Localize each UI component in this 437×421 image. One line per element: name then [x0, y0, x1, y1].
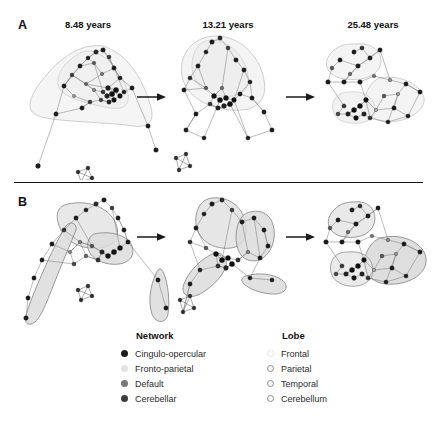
- graph-node: [70, 73, 74, 77]
- graph-node: [90, 294, 94, 298]
- graph-node: [101, 48, 106, 53]
- lobe-graph-b-13y: [160, 192, 300, 325]
- graph-node: [50, 242, 54, 246]
- graph-node: [154, 148, 159, 153]
- graph-node: [188, 240, 192, 244]
- graph-node: [118, 76, 122, 80]
- hollow-circle-icon: [267, 365, 274, 372]
- hull-frontal-b3: [328, 202, 375, 238]
- graph-node: [350, 208, 354, 212]
- hull-parietal-b1: [88, 233, 133, 265]
- graph-node: [326, 80, 331, 85]
- graph-node: [78, 240, 82, 244]
- graph-node: [80, 106, 84, 110]
- graph-node: [218, 36, 222, 40]
- figure-legend: Network Cingulo-opercularFronto-parietal…: [118, 330, 428, 412]
- graph-node: [96, 258, 100, 262]
- legend-item[interactable]: Cerebellum: [264, 391, 327, 406]
- graph-node: [101, 90, 105, 94]
- graph-node: [90, 176, 94, 180]
- graph-node: [174, 156, 178, 160]
- graph-node: [54, 112, 58, 116]
- graph-node: [352, 276, 357, 281]
- graph-node: [40, 258, 44, 262]
- graph-node: [342, 104, 346, 108]
- graph-node: [84, 208, 88, 212]
- graph-node: [234, 58, 238, 62]
- graph-node: [202, 212, 206, 216]
- graph-node: [352, 50, 356, 54]
- graph-node: [358, 80, 363, 85]
- network-graph-a-25y: [310, 30, 435, 160]
- graph-node: [184, 152, 188, 156]
- graph-node: [79, 298, 83, 302]
- graph-node: [202, 136, 206, 140]
- graph-node: [324, 240, 329, 245]
- graph-node: [194, 112, 198, 116]
- legend-item[interactable]: Default: [118, 376, 206, 391]
- legend-item[interactable]: Frontal: [264, 346, 327, 361]
- legend-item-label: Parietal: [281, 364, 312, 374]
- graph-node: [248, 276, 252, 280]
- edge-group-cerebellar-a1: [78, 168, 92, 180]
- graph-node: [246, 250, 250, 254]
- graph-node: [342, 80, 347, 85]
- filled-circle-icon: [121, 350, 128, 357]
- graph-node: [376, 206, 380, 210]
- graph-node: [76, 288, 80, 292]
- graph-node: [126, 240, 130, 244]
- lobe-graph-b-8y: [8, 190, 183, 325]
- graph-node: [338, 58, 342, 62]
- graph-node: [240, 220, 244, 224]
- graph-node: [248, 80, 252, 84]
- legend-item[interactable]: Parietal: [264, 361, 327, 376]
- graph-node: [86, 166, 90, 170]
- graph-node: [204, 246, 208, 250]
- graph-node: [88, 100, 92, 104]
- legend-item-label: Default: [135, 379, 164, 389]
- graph-node: [356, 240, 361, 245]
- graph-node: [112, 98, 117, 103]
- legend-item[interactable]: Cerebellar: [118, 391, 206, 406]
- graph-node: [404, 82, 408, 86]
- legend-column-network: Network Cingulo-opercularFronto-parietal…: [118, 330, 206, 406]
- graph-node: [214, 252, 219, 257]
- graph-node: [270, 278, 274, 282]
- graph-node: [188, 164, 192, 168]
- graph-node: [230, 208, 234, 212]
- graph-node: [358, 104, 363, 109]
- hollow-circle-icon: [267, 395, 274, 402]
- graph-node: [358, 204, 362, 208]
- age-label-a-1: 8.48 years: [33, 19, 143, 30]
- graph-node: [118, 94, 123, 99]
- graph-node: [346, 112, 351, 117]
- legend-column-lobe: Lobe FrontalParietalTemporalCerebellum: [264, 330, 327, 406]
- graph-node: [262, 228, 266, 232]
- legend-item[interactable]: Cingulo-opercular: [118, 346, 206, 361]
- legend-title-lobe: Lobe: [282, 330, 327, 341]
- graph-node: [362, 258, 367, 263]
- legend-item[interactable]: Temporal: [264, 376, 327, 391]
- graph-node: [246, 136, 250, 140]
- graph-node: [380, 254, 384, 258]
- graph-node: [68, 250, 72, 254]
- graph-node: [350, 268, 355, 273]
- graph-node: [354, 116, 359, 121]
- graph-node: [188, 76, 192, 80]
- legend-item-label: Cerebellar: [135, 394, 177, 404]
- graph-node: [224, 96, 229, 101]
- graph-node: [334, 272, 338, 276]
- legend-item-label: Cingulo-opercular: [135, 349, 206, 359]
- graph-node: [100, 72, 103, 75]
- legend-item[interactable]: Fronto-parietal: [118, 361, 206, 376]
- panel-divider: [14, 182, 423, 183]
- graph-node: [84, 254, 88, 258]
- graph-node: [226, 256, 231, 261]
- edge-group-cerebellar-b1: [78, 286, 92, 300]
- legend-item-label: Temporal: [281, 379, 318, 389]
- graph-node: [220, 198, 224, 202]
- graph-node: [220, 86, 224, 90]
- graph-node: [374, 108, 377, 111]
- graph-node: [105, 94, 110, 99]
- graph-node: [252, 216, 256, 220]
